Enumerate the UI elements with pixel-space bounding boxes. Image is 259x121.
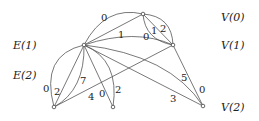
edge-label: 1: [118, 29, 124, 40]
label-v2: V(2): [221, 101, 245, 114]
node-v2: [201, 104, 205, 108]
edge-label: 1: [151, 25, 157, 36]
edge-label: 2: [160, 23, 166, 34]
edge-label: 2: [54, 86, 60, 97]
edge-hub-v0-straight: [84, 14, 143, 45]
node-bottom-middle: [111, 105, 115, 109]
nodes: [52, 12, 205, 109]
edge-labels: 0 1 0 1 2 0 2 7 4 0 2 5 0 3: [43, 12, 205, 104]
edge-label: 0: [101, 12, 107, 23]
node-v0: [141, 12, 145, 16]
node-v1: [171, 43, 175, 47]
label-e2: E(2): [12, 69, 37, 82]
edge-bl-hub-arc: [51, 45, 84, 107]
edge-label: 4: [88, 91, 94, 102]
label-v0: V(0): [221, 11, 245, 24]
edge-label: 0: [143, 31, 149, 42]
graph-diagram: 0 1 0 1 2 0 2 7 4 0 2 5 0 3 E(1) E(2) V(…: [0, 0, 259, 121]
edge-v1-v2: [173, 45, 203, 106]
edge-label: 3: [170, 93, 176, 104]
edge-label: 2: [115, 84, 121, 95]
edge-label: 0: [99, 88, 105, 99]
label-v1: V(1): [221, 39, 245, 52]
label-e1: E(1): [12, 39, 37, 52]
edges: [51, 12, 203, 107]
edge-label: 0: [199, 84, 205, 95]
edge-label: 7: [80, 75, 86, 86]
edge-label: 0: [43, 83, 49, 94]
row-labels: E(1) E(2) V(0) V(1) V(2): [12, 11, 245, 114]
node-bottom-left: [52, 105, 56, 109]
edge-bl-v1: [54, 45, 173, 107]
node-hub: [82, 43, 86, 47]
edge-label: 5: [181, 72, 187, 83]
